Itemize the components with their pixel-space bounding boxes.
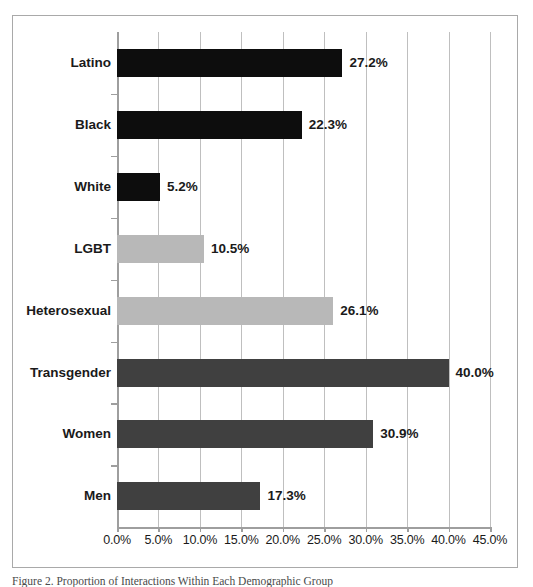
bar-heterosexual[interactable] <box>117 297 333 325</box>
x-tick-label-30.0%: 30.0% <box>348 533 382 547</box>
bar-latino[interactable] <box>117 49 342 77</box>
x-tick-15.0% <box>241 527 243 532</box>
x-tick-label-20.0%: 20.0% <box>266 533 300 547</box>
bar-row-latino: 27.2% <box>0 32 533 94</box>
x-tick-label-10.0%: 10.0% <box>183 533 217 547</box>
x-tick-label-25.0%: 25.0% <box>307 533 341 547</box>
bar-value-latino: 27.2% <box>342 49 387 77</box>
x-tick-20.0% <box>283 527 285 532</box>
bar-row-white: 5.2% <box>0 156 533 218</box>
bar-value-black: 22.3% <box>302 111 347 139</box>
x-tick-5.0% <box>158 527 160 532</box>
x-tick-35.0% <box>407 527 409 532</box>
bar-value-lgbt: 10.5% <box>204 235 249 263</box>
bar-black[interactable] <box>117 111 302 139</box>
x-tick-label-35.0%: 35.0% <box>390 533 424 547</box>
x-tick-label-0.0%: 0.0% <box>103 533 131 547</box>
x-tick-10.0% <box>200 527 202 532</box>
bar-value-men: 17.3% <box>260 482 305 510</box>
x-tick-label-45.0%: 45.0% <box>473 533 507 547</box>
bar-men[interactable] <box>117 482 260 510</box>
bar-value-heterosexual: 26.1% <box>333 297 378 325</box>
bar-row-transgender: 40.0% <box>0 342 533 404</box>
x-tick-label-40.0%: 40.0% <box>431 533 465 547</box>
bar-row-women: 30.9% <box>0 403 533 465</box>
bar-row-heterosexual: 26.1% <box>0 280 533 342</box>
x-tick-label-5.0%: 5.0% <box>145 533 173 547</box>
x-tick-45.0% <box>490 527 492 532</box>
bar-women[interactable] <box>117 420 373 448</box>
bar-white[interactable] <box>117 173 160 201</box>
figure-caption: Figure 2. Proportion of Interactions Wit… <box>12 575 522 587</box>
bar-value-women: 30.9% <box>373 420 418 448</box>
x-tick-40.0% <box>449 527 451 532</box>
bar-lgbt[interactable] <box>117 235 204 263</box>
bar-value-white: 5.2% <box>160 173 198 201</box>
x-tick-label-15.0%: 15.0% <box>224 533 258 547</box>
bar-transgender[interactable] <box>117 359 449 387</box>
bar-row-lgbt: 10.5% <box>0 218 533 280</box>
x-tick-0.0% <box>117 527 119 532</box>
bar-row-black: 22.3% <box>0 94 533 156</box>
x-tick-25.0% <box>324 527 326 532</box>
bar-value-transgender: 40.0% <box>449 359 494 387</box>
bar-row-men: 17.3% <box>0 465 533 527</box>
x-tick-30.0% <box>366 527 368 532</box>
